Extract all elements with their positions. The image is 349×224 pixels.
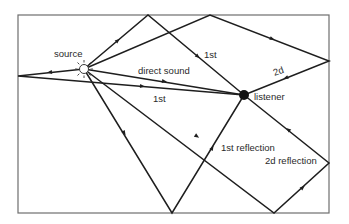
background (0, 0, 349, 224)
first-left-label: 1st (153, 94, 166, 104)
second-reflection-label: 2d reflection (265, 156, 317, 166)
listener-icon (239, 90, 249, 100)
direct-sound-label: direct sound (138, 66, 190, 76)
room-acoustics-diagram (0, 0, 349, 224)
source-label: source (54, 49, 83, 59)
first-reflection-label: 1st reflection (221, 143, 275, 153)
listener-label: listener (254, 92, 285, 102)
first-top-label: 1st (204, 50, 217, 60)
